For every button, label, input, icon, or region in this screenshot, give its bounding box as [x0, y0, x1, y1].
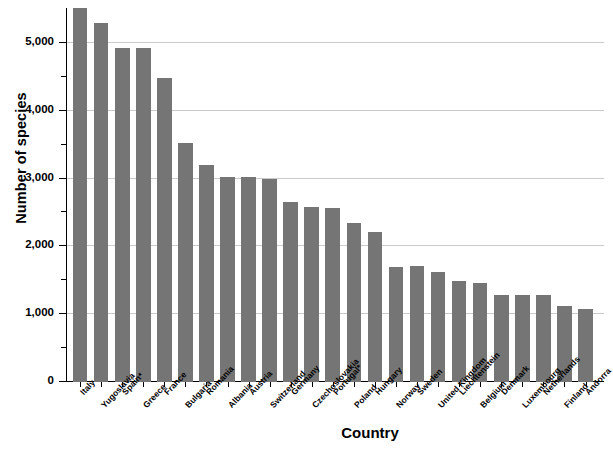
bar[interactable] — [304, 207, 319, 382]
bar[interactable] — [262, 179, 277, 383]
x-tick — [185, 382, 186, 387]
bar[interactable] — [115, 48, 130, 382]
x-tick — [101, 382, 102, 387]
y-tick-label: 0 — [0, 374, 54, 386]
y-axis-title: Number of species — [13, 63, 29, 253]
bar[interactable] — [220, 177, 235, 383]
bar[interactable] — [241, 177, 256, 382]
x-tick — [270, 382, 271, 387]
bar[interactable] — [136, 48, 151, 382]
x-axis-title: Country — [300, 424, 440, 441]
x-tick — [143, 382, 144, 387]
x-tick-label: Albania — [226, 381, 254, 410]
x-tick — [438, 382, 439, 387]
bar[interactable] — [536, 295, 551, 383]
x-tick — [480, 382, 481, 387]
x-tick — [522, 382, 523, 387]
x-tick — [312, 382, 313, 387]
bars-group — [66, 8, 604, 382]
x-tick — [396, 382, 397, 387]
bar[interactable] — [283, 202, 298, 382]
bar[interactable] — [94, 23, 109, 382]
bar[interactable] — [73, 8, 88, 382]
y-tick-label: 5,000 — [0, 35, 54, 47]
x-tick — [564, 382, 565, 387]
bar[interactable] — [410, 266, 425, 382]
bar[interactable] — [178, 143, 193, 382]
bar[interactable] — [452, 281, 467, 382]
bar[interactable] — [431, 272, 446, 382]
y-tick-label: 4,000 — [0, 103, 54, 115]
bar[interactable] — [494, 295, 509, 383]
x-tick — [228, 382, 229, 387]
x-tick — [354, 382, 355, 387]
y-tick-label: 3,000 — [0, 171, 54, 183]
bar[interactable] — [325, 208, 340, 382]
bar[interactable] — [199, 165, 214, 382]
bar[interactable] — [368, 232, 383, 382]
y-tick-label: 1,000 — [0, 306, 54, 318]
bar[interactable] — [578, 309, 593, 382]
y-tick-label: 2,000 — [0, 238, 54, 250]
bar[interactable] — [157, 78, 172, 383]
